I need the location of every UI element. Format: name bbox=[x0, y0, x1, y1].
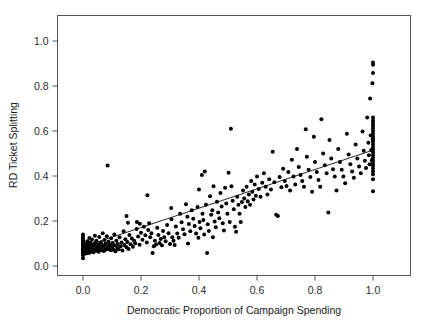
data-point bbox=[363, 159, 367, 163]
data-point bbox=[361, 129, 365, 133]
data-point bbox=[202, 233, 206, 237]
data-point bbox=[197, 188, 201, 192]
data-point bbox=[101, 231, 105, 235]
data-point bbox=[307, 168, 311, 172]
data-point bbox=[321, 152, 325, 156]
data-point bbox=[187, 222, 191, 226]
data-point bbox=[357, 165, 361, 169]
data-point bbox=[94, 239, 98, 243]
data-point bbox=[310, 190, 314, 194]
data-point bbox=[105, 234, 109, 238]
data-point bbox=[302, 185, 306, 189]
data-point bbox=[112, 233, 116, 237]
data-point bbox=[305, 155, 309, 159]
data-point bbox=[243, 205, 247, 209]
data-point bbox=[193, 224, 197, 228]
data-point bbox=[221, 221, 225, 225]
data-point bbox=[207, 229, 211, 233]
data-point bbox=[151, 251, 155, 255]
data-point bbox=[255, 174, 259, 178]
data-point bbox=[293, 183, 297, 187]
data-point bbox=[196, 236, 200, 240]
data-point bbox=[308, 175, 312, 179]
data-point bbox=[224, 201, 228, 205]
data-point bbox=[201, 218, 205, 222]
data-point bbox=[209, 213, 213, 217]
data-point bbox=[238, 212, 242, 216]
data-point bbox=[329, 156, 333, 160]
data-point bbox=[286, 170, 290, 174]
y-tick-label: 1.0 bbox=[34, 35, 49, 47]
data-point bbox=[340, 168, 344, 172]
data-point bbox=[174, 224, 178, 228]
data-point bbox=[119, 244, 123, 248]
data-point bbox=[169, 217, 173, 221]
data-point bbox=[269, 188, 273, 192]
data-point bbox=[290, 158, 294, 162]
data-point bbox=[190, 208, 194, 212]
data-point bbox=[235, 195, 239, 199]
data-point bbox=[148, 235, 152, 239]
data-point bbox=[292, 174, 296, 178]
data-point bbox=[265, 192, 269, 196]
data-point bbox=[229, 184, 233, 188]
data-point bbox=[169, 206, 173, 210]
data-point bbox=[366, 141, 370, 145]
y-tick-label: 0.0 bbox=[34, 260, 49, 272]
data-point bbox=[245, 185, 249, 189]
plot-canvas: 0.00.20.40.60.81.0 0.00.20.40.60.81.0 De… bbox=[0, 0, 429, 326]
data-point bbox=[217, 216, 221, 220]
data-point bbox=[147, 221, 151, 225]
data-point bbox=[149, 231, 153, 235]
data-point bbox=[167, 231, 171, 235]
data-point bbox=[173, 243, 177, 247]
data-point bbox=[126, 221, 130, 225]
data-point bbox=[232, 207, 236, 211]
data-point bbox=[109, 236, 113, 240]
data-point bbox=[299, 173, 303, 177]
data-point bbox=[106, 163, 110, 167]
data-point bbox=[371, 71, 375, 75]
data-point bbox=[140, 238, 144, 242]
data-point bbox=[162, 235, 166, 239]
data-point bbox=[154, 242, 158, 246]
data-point bbox=[216, 210, 220, 214]
data-point bbox=[175, 231, 179, 235]
data-point bbox=[231, 199, 235, 203]
data-point bbox=[239, 220, 243, 224]
data-point bbox=[125, 214, 129, 218]
data-point bbox=[304, 127, 308, 131]
data-point bbox=[234, 230, 238, 234]
data-point bbox=[271, 150, 275, 154]
data-point bbox=[333, 174, 337, 178]
data-point bbox=[93, 234, 97, 238]
data-point bbox=[133, 241, 137, 245]
data-point bbox=[142, 225, 146, 229]
data-point bbox=[164, 239, 168, 243]
x-tick-label: 0.4 bbox=[192, 284, 207, 296]
scatter-plot-figure: 0.00.20.40.60.81.0 0.00.20.40.60.81.0 De… bbox=[0, 0, 429, 326]
data-point bbox=[249, 179, 253, 183]
data-point bbox=[188, 229, 192, 233]
data-point bbox=[328, 138, 332, 142]
x-axis-title: Democratic Proportion of Campaign Spendi… bbox=[127, 304, 341, 316]
data-point bbox=[186, 242, 190, 246]
data-point bbox=[252, 197, 256, 201]
data-point bbox=[146, 228, 150, 232]
data-point bbox=[153, 239, 157, 243]
data-point bbox=[242, 197, 246, 201]
data-point bbox=[122, 229, 126, 233]
x-tick-label: 1.0 bbox=[366, 284, 381, 296]
data-point bbox=[343, 181, 347, 185]
data-point bbox=[200, 212, 204, 216]
data-point bbox=[338, 160, 342, 164]
data-point bbox=[211, 235, 215, 239]
data-point bbox=[143, 233, 147, 237]
data-point bbox=[288, 188, 292, 192]
data-point bbox=[139, 231, 143, 235]
data-point bbox=[185, 215, 189, 219]
data-point bbox=[267, 177, 271, 181]
data-point bbox=[159, 237, 163, 241]
data-point bbox=[212, 184, 216, 188]
data-point bbox=[227, 171, 231, 175]
